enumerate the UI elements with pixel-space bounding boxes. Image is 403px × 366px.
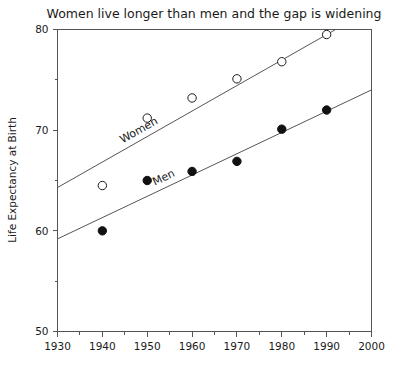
x-tick-label: 1960: [179, 340, 206, 352]
y-tick-label: 70: [35, 124, 48, 136]
x-tick-label: 1980: [268, 340, 295, 352]
data-point-men: [233, 157, 241, 165]
data-point-men: [322, 106, 330, 114]
y-axis-title: Life Expectancy at Birth: [6, 117, 18, 243]
trend-line-women: [58, 30, 336, 188]
chart-container: Women live longer than men and the gap i…: [0, 0, 403, 366]
data-point-women: [188, 94, 196, 102]
y-tick-label: 60: [35, 225, 48, 237]
chart-title: Women live longer than men and the gap i…: [47, 6, 382, 21]
y-axis-ticks: 50607080: [35, 23, 57, 337]
data-point-men: [278, 125, 286, 133]
x-tick-label: 1940: [89, 340, 116, 352]
plot-frame: [58, 30, 372, 332]
x-tick-label: 1990: [313, 340, 340, 352]
y-tick-label: 50: [35, 325, 48, 337]
life-expectancy-scatter-chart: Women live longer than men and the gap i…: [0, 0, 403, 366]
data-point-women: [278, 58, 286, 66]
trend-lines: [58, 30, 372, 239]
x-tick-label: 1950: [134, 340, 161, 352]
data-point-women: [98, 181, 106, 189]
data-point-men: [98, 227, 106, 235]
y-tick-label: 80: [35, 23, 48, 35]
series-label-men: Men: [150, 167, 177, 189]
x-tick-label: 2000: [358, 340, 385, 352]
data-point-women: [322, 30, 330, 38]
data-point-men: [188, 167, 196, 175]
x-axis-ticks: 19301940195019601970198019902000: [44, 332, 385, 352]
data-point-women: [233, 75, 241, 83]
x-tick-label: 1930: [44, 340, 71, 352]
x-tick-label: 1970: [224, 340, 251, 352]
